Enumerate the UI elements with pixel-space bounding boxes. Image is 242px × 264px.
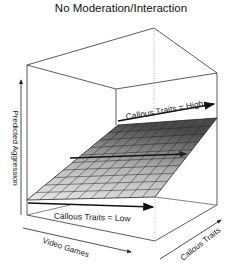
- low-arrow: [28, 203, 153, 207]
- y-axis-label: Predicted Aggression: [11, 110, 20, 186]
- surface-plot: Predicted Aggression Video Games Callous…: [0, 0, 242, 264]
- low-label: Callous Traits = Low: [54, 211, 132, 224]
- high-label: Callous Traits = High: [125, 98, 204, 122]
- z-axis-label: Callous Traits: [179, 226, 223, 263]
- regression-surface: [27, 118, 217, 200]
- x-axis-label: Video Games: [41, 236, 90, 259]
